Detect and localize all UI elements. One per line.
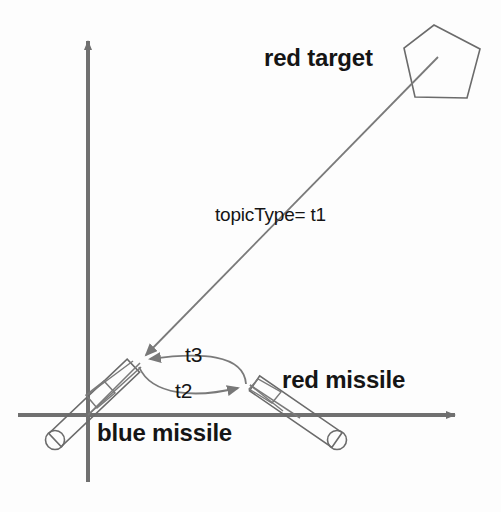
- label-t2: t2: [175, 380, 192, 401]
- label-red-missile: red missile: [282, 368, 405, 392]
- diagram-canvas: red target red missile blue missile topi…: [0, 0, 501, 512]
- angle-marker-ray: [86, 361, 133, 396]
- pentagon-outline: [404, 25, 480, 98]
- scenario-vector-scene: [0, 0, 501, 512]
- red-missile-angle-notch: [249, 379, 281, 403]
- label-topic-type: topicType= t1: [215, 205, 326, 224]
- label-red-target: red target: [264, 46, 373, 70]
- label-t3: t3: [185, 344, 202, 365]
- label-blue-missile: blue missile: [97, 421, 232, 445]
- red-target-shape: [404, 25, 480, 98]
